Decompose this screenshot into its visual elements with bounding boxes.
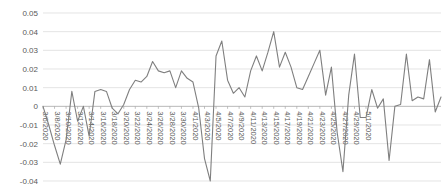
x-axis-tick-label: 3/26/2020 <box>156 111 165 144</box>
x-axis-tick-label: 3/30/2020 <box>179 111 188 144</box>
x-axis-tick-label: 4/11/2020 <box>249 111 258 144</box>
y-axis-tick-label: 0.04 <box>22 28 38 37</box>
y-axis-tick-label: 0 <box>34 102 39 111</box>
x-axis-tick-label: 3/20/2020 <box>122 111 131 144</box>
x-axis-tick-label: 4/3/2020 <box>203 111 212 140</box>
x-axis-tick-label: 3/18/2020 <box>110 111 119 144</box>
y-axis-tick-label: -0.04 <box>20 177 39 186</box>
y-axis-tick-label: 0.05 <box>22 9 38 18</box>
gridlines <box>43 13 441 181</box>
x-axis-tick-label: 4/7/2020 <box>226 111 235 140</box>
x-axis-tick-label: 4/17/2020 <box>283 111 292 144</box>
line-chart: 0.050.040.030.020.010-0.01-0.02-0.03-0.0… <box>0 0 444 196</box>
chart-svg: 0.050.040.030.020.010-0.01-0.02-0.03-0.0… <box>0 0 444 196</box>
y-axis-tick-label: -0.01 <box>20 121 39 130</box>
y-axis-tick-label: -0.02 <box>20 140 39 149</box>
x-axis-tick-label: 3/16/2020 <box>99 111 108 144</box>
x-axis-tick-label: 4/21/2020 <box>306 111 315 144</box>
x-axis-tick-label: 5/1/2020 <box>364 111 373 140</box>
x-axis-tick-label: 4/15/2020 <box>272 111 281 144</box>
x-axis-tick-label: 3/28/2020 <box>168 111 177 144</box>
x-axis-tick-label: 4/19/2020 <box>295 111 304 144</box>
x-axis-tick-label: 4/5/2020 <box>214 111 223 140</box>
y-axis-tick-label: 0.02 <box>22 65 38 74</box>
x-axis-tick-label: 4/1/2020 <box>191 111 200 140</box>
y-axis-tick-label: -0.03 <box>20 158 39 167</box>
x-axis-tick-label: 3/24/2020 <box>145 111 154 144</box>
y-axis-tick-label: 0.01 <box>22 84 38 93</box>
x-axis-tick-label: 4/23/2020 <box>318 111 327 144</box>
x-axis-tick-label: 4/9/2020 <box>237 111 246 140</box>
chart-plot-area: 0.050.040.030.020.010-0.01-0.02-0.03-0.0… <box>0 0 444 196</box>
x-axis-tick-label: 3/8/2020 <box>53 111 62 140</box>
x-axis-tick-label: 3/22/2020 <box>133 111 142 144</box>
x-axis-tick-label: 4/13/2020 <box>260 111 269 144</box>
y-axis-tick-label: 0.03 <box>22 46 38 55</box>
y-axis-tick-labels: 0.050.040.030.020.010-0.01-0.02-0.03-0.0… <box>20 9 39 186</box>
